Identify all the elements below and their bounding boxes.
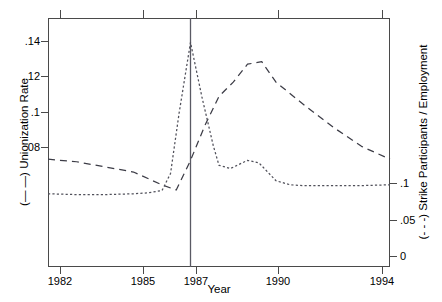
- y-left-tick-0.1: [41, 112, 48, 113]
- unionization-rate-line: [48, 62, 390, 190]
- x-bottom-tick-1982: [60, 267, 61, 274]
- chart-figure: .14 .12 .1 .08 .1 .05 0 1982 1985 1987 1…: [0, 0, 442, 302]
- x-top-tick-1985: [143, 10, 144, 18]
- x-bottom-tick-1985: [143, 267, 144, 274]
- x-axis-title: Year: [189, 283, 249, 295]
- x-label-1985: 1985: [113, 276, 173, 287]
- x-label-1994: 1994: [352, 276, 412, 287]
- x-top-tick-1990: [278, 10, 279, 18]
- strike-participants-line: [48, 42, 390, 194]
- x-label-1990: 1990: [248, 276, 308, 287]
- y-left-tick-0.14: [41, 41, 48, 42]
- y-right-tick-0.1: [390, 183, 397, 184]
- y-left-tick-0.08: [41, 147, 48, 148]
- x-bottom-tick-1990: [278, 267, 279, 274]
- x-top-tick-1987: [196, 10, 197, 18]
- y-axis-right-title: (- - -) Strike Participants / Employment: [417, 37, 429, 247]
- x-top-tick-1994: [382, 10, 383, 18]
- x-top-tick-1982: [60, 10, 61, 18]
- x-bottom-tick-1994: [382, 267, 383, 274]
- y-right-label-0: 0: [400, 251, 440, 262]
- x-bottom-tick-1987: [196, 267, 197, 274]
- plot-curves: [48, 18, 390, 267]
- y-right-tick-0: [390, 256, 397, 257]
- y-right-tick-0.05: [390, 220, 397, 221]
- y-axis-left-title: (— —) Unionization Rate: [18, 42, 30, 242]
- y-left-tick-0.12: [41, 76, 48, 77]
- x-label-1982: 1982: [30, 276, 90, 287]
